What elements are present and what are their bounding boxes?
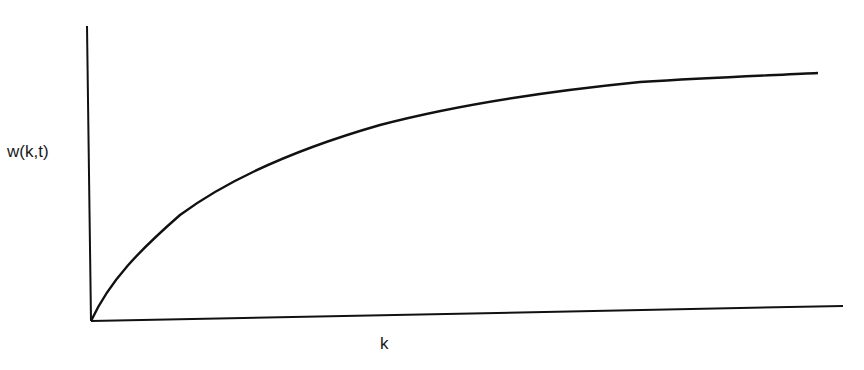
- x-axis: [91, 306, 843, 321]
- chart-canvas: [0, 0, 864, 370]
- curve-w-k-t: [91, 73, 818, 321]
- x-axis-label: k: [380, 334, 389, 354]
- y-axis-label: w(k,t): [7, 142, 49, 162]
- y-axis: [87, 26, 91, 321]
